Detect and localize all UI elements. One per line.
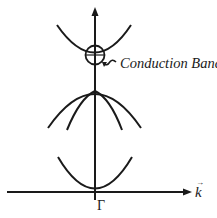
energy-axis-arrowhead xyxy=(92,7,99,16)
band-structure-diagram: Conduction Band k → Γ xyxy=(0,0,217,218)
conduction-band-label: Conduction Band xyxy=(120,55,217,71)
gamma-point-label: Γ xyxy=(97,198,105,213)
k-vector-mark: → xyxy=(196,178,204,187)
k-axis-arrowhead xyxy=(183,189,192,196)
